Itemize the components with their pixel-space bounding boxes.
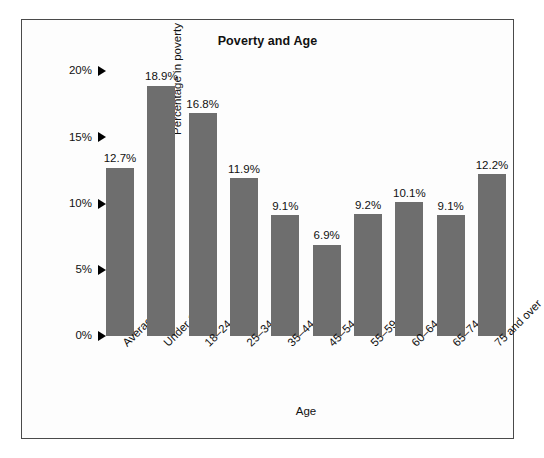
bar-value-label: 12.7%: [104, 153, 137, 165]
tick-triangle-icon: [98, 199, 106, 209]
bar[interactable]: 12.2%: [478, 174, 506, 336]
bar-value-label: 12.2%: [476, 160, 509, 172]
bar-value-label: 10.1%: [393, 188, 426, 200]
tick-triangle-icon: [98, 265, 106, 275]
chart-figure: Poverty and Age Percentage in poverty 0%…: [21, 19, 514, 439]
x-axis-title: Age: [106, 405, 506, 417]
bar[interactable]: 9.1%: [271, 215, 299, 336]
bar-value-label: 18.9%: [145, 71, 178, 83]
bar-value-label: 11.9%: [228, 164, 260, 176]
y-axis-tick-label: 10%: [69, 198, 92, 210]
bar-value-label: 9.1%: [272, 201, 298, 213]
y-axis-tick-label: 15%: [69, 132, 92, 144]
bar[interactable]: 11.9%: [230, 178, 258, 336]
tick-triangle-icon: [98, 132, 106, 142]
bar-value-label: 16.8%: [186, 99, 219, 111]
plot-area: 0%5%10%15%20%12.7%Average18.9%Under 1816…: [106, 71, 506, 336]
bar[interactable]: 16.8%: [189, 113, 217, 336]
bar[interactable]: 18.9%: [147, 86, 175, 336]
bar[interactable]: 6.9%: [313, 245, 341, 336]
chart-title: Poverty and Age: [22, 34, 513, 48]
bar-value-label: 9.1%: [438, 201, 464, 213]
bar-value-label: 9.2%: [355, 200, 381, 212]
tick-triangle-icon: [98, 66, 106, 76]
y-axis-tick-label: 0%: [75, 330, 92, 342]
y-axis-tick-label: 20%: [69, 65, 92, 77]
bar[interactable]: 9.1%: [437, 215, 465, 336]
bar[interactable]: 12.7%: [106, 168, 134, 336]
bar-value-label: 6.9%: [314, 230, 340, 242]
tick-triangle-icon: [98, 331, 106, 341]
bar[interactable]: 9.2%: [354, 214, 382, 336]
y-axis-tick-label: 5%: [75, 264, 92, 276]
bar[interactable]: 10.1%: [395, 202, 423, 336]
